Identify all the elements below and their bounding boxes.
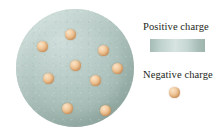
electron-4 [70,60,81,71]
legend-swatch-negative-charge [169,87,180,98]
legend-swatch-negative-charge-wrap [169,87,180,98]
legend-entry-negative-charge: Negative charge [143,68,222,98]
legend-swatch-positive-charge [150,39,205,52]
electron-6 [43,73,54,84]
legend-label-negative-charge: Negative charge [143,68,222,81]
electron-3 [98,45,109,56]
electron-9 [100,105,111,116]
electron-8 [62,103,73,114]
electron-1 [65,29,76,40]
figure-canvas: Positive charge Negative charge [0,0,222,137]
electron-2 [37,41,48,52]
electron-7 [90,75,101,86]
legend: Positive charge Negative charge [143,20,222,98]
electron-5 [112,63,123,74]
legend-label-positive-charge: Positive charge [143,20,222,33]
